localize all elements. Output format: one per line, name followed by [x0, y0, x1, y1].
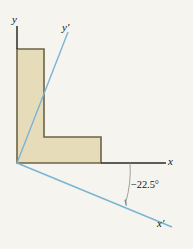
x-prime-axis-line [17, 163, 172, 227]
x-prime-axis-label: x′ [157, 218, 164, 229]
rotation-angle-label: −22.5° [131, 180, 159, 191]
y-axis-label: y [12, 14, 17, 25]
figure-container: y y′ x x′ −22.5° [0, 0, 193, 249]
y-prime-axis-label: y′ [62, 22, 69, 33]
l-shape-cross-section [17, 49, 101, 163]
x-axis-label: x [168, 156, 173, 167]
rotation-angle-arc [126, 163, 131, 203]
figure-svg [0, 0, 193, 249]
